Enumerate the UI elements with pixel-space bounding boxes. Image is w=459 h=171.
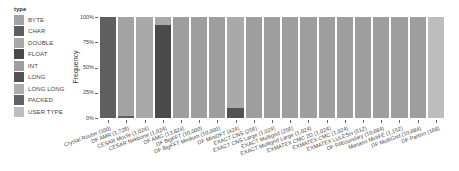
legend-item: DOUBLE [14,37,65,49]
bar-segment [391,17,407,118]
bar [100,17,116,118]
bar-segment [209,17,225,118]
legend-swatch [14,84,24,94]
bar-segment [300,17,316,118]
legend-label: PACKED [28,97,53,103]
bar [118,17,134,118]
bar [264,17,280,118]
legend-label: DOUBLE [28,40,53,46]
bar-segment [337,17,353,118]
bar-segment [155,25,171,118]
legend-item: BYTE [14,14,65,26]
bar-segment [246,17,262,118]
y-tick-label: 50% [70,64,94,70]
legend-label: USER TYPE [28,109,63,115]
x-tick-mark [181,120,182,123]
y-tick-label: 100% [70,14,94,20]
legend: type BYTECHARDOUBLEFLOATINTLONGLONG LONG… [14,6,65,118]
x-tick-mark [108,120,109,123]
bar-segment [428,17,444,118]
bar-segment [319,17,335,118]
x-tick-mark [199,120,200,123]
legend-title: type [14,6,65,12]
legend-items: BYTECHARDOUBLEFLOATINTLONGLONG LONGPACKE… [14,14,65,118]
legend-label: INT [28,63,38,69]
bar [191,17,207,118]
x-tick-mark [363,120,364,123]
bar [428,17,444,118]
bar-segment [100,17,116,118]
legend-item: CHAR [14,26,65,38]
legend-swatch [14,72,24,82]
legend-item: LONG [14,72,65,84]
bar [136,17,152,118]
bar [391,17,407,118]
x-tick-mark [145,120,146,123]
y-tick-label: 0% [70,115,94,121]
bar-segment [282,17,298,118]
bar-segment [227,108,243,118]
x-tick-mark [345,120,346,123]
legend-swatch [14,26,24,36]
x-tick-mark [254,120,255,123]
legend-label: BYTE [28,17,44,23]
legend-label: LONG LONG [28,86,65,92]
legend-item: INT [14,60,65,72]
bar-segment [373,17,389,118]
x-tick-mark [272,120,273,123]
bar-segment [227,17,243,108]
legend-swatch [14,95,24,105]
bar [337,17,353,118]
legend-item: FLOAT [14,49,65,61]
bar-segment [191,17,207,118]
y-tick-label: 25% [70,89,94,95]
bar-segment [264,17,280,118]
bar [282,17,298,118]
bar [173,17,189,118]
y-tick-mark [95,118,98,119]
bar [300,17,316,118]
bar [209,17,225,118]
x-tick-mark [308,120,309,123]
bar-segment [173,17,189,118]
bar [227,17,243,118]
bar-segment [155,17,171,25]
y-tick-mark [95,42,98,43]
x-tick-mark [217,120,218,123]
bar [373,17,389,118]
x-tick-mark [163,120,164,123]
x-tick-mark [399,120,400,123]
plot-area [100,17,446,118]
x-tick-mark [126,120,127,123]
x-tick-mark [236,120,237,123]
x-tick-mark [436,120,437,123]
legend-item: USER TYPE [14,106,65,118]
bar [155,17,171,118]
y-tick-mark [95,17,98,18]
bar-segment [118,116,134,118]
bar [319,17,335,118]
legend-label: CHAR [28,28,45,34]
x-tick-mark [418,120,419,123]
legend-item: LONG LONG [14,83,65,95]
legend-item: PACKED [14,95,65,107]
y-tick-label: 75% [70,39,94,45]
legend-label: LONG [28,74,45,80]
bar-segment [136,17,152,118]
bar [410,17,426,118]
x-tick-mark [327,120,328,123]
legend-swatch [14,15,24,25]
x-tick-mark [381,120,382,123]
legend-label: FLOAT [28,51,47,57]
bar [246,17,262,118]
bar-segment [355,17,371,118]
bar-segment [410,17,426,118]
bar-segment [118,17,134,116]
y-tick-mark [95,93,98,94]
legend-swatch [14,107,24,117]
legend-swatch [14,49,24,59]
y-tick-mark [95,68,98,69]
legend-swatch [14,38,24,48]
x-tick-mark [290,120,291,123]
legend-swatch [14,61,24,71]
